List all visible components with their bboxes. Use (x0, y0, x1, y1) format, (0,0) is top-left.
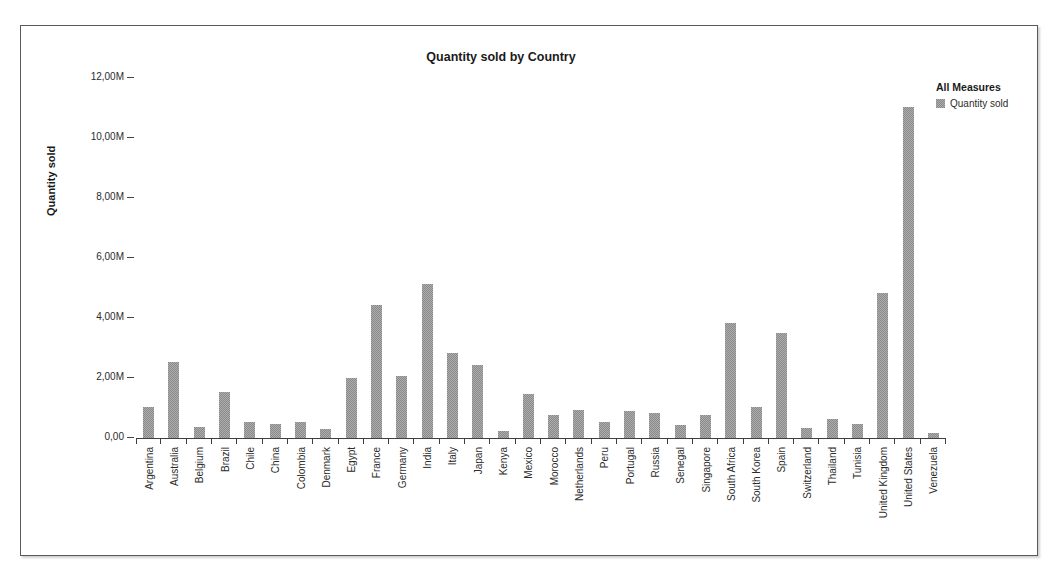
x-label-slot: Tunisia (845, 447, 870, 547)
bar[interactable] (548, 415, 559, 438)
bar[interactable] (422, 284, 433, 439)
x-axis-label: South Africa (725, 447, 736, 501)
x-tick-mark (237, 439, 262, 444)
x-tick-mark (668, 439, 693, 444)
x-tick-mark (819, 439, 844, 444)
bar[interactable] (877, 293, 888, 439)
x-axis-label: Chile (244, 447, 255, 470)
bar[interactable] (801, 428, 812, 439)
x-tick-mark (921, 439, 946, 444)
bar[interactable] (523, 394, 534, 438)
bar[interactable] (472, 365, 483, 439)
y-tick-label: 2,00M (96, 371, 124, 382)
legend: All Measures Quantity sold (936, 81, 1036, 109)
bar-slot (794, 66, 819, 438)
y-tick-mark (127, 377, 134, 378)
x-axis-label: Senegal (675, 447, 686, 484)
bar-slot (263, 66, 288, 438)
x-label-slot: United States (895, 447, 920, 547)
x-axis-ticks (136, 439, 946, 444)
bar[interactable] (700, 415, 711, 438)
bar-slot (693, 66, 718, 438)
bar-chart: Quantity sold by Country Quantity sold 1… (21, 26, 1037, 555)
x-axis-label: Italy (447, 447, 458, 465)
bar[interactable] (599, 422, 610, 439)
x-tick-mark (794, 439, 819, 444)
bar[interactable] (371, 305, 382, 439)
bar[interactable] (320, 429, 331, 438)
x-tick-mark (161, 439, 186, 444)
x-axis-label: Thailand (827, 447, 838, 485)
x-tick-mark (744, 439, 769, 444)
bar[interactable] (346, 378, 357, 438)
legend-title: All Measures (936, 81, 1036, 93)
bar-slot (819, 66, 844, 438)
x-label-slot: Morocco (541, 447, 566, 547)
legend-item-label: Quantity sold (950, 98, 1008, 109)
x-tick-mark (364, 439, 389, 444)
bar-slot (389, 66, 414, 438)
bar[interactable] (649, 413, 660, 438)
bar[interactable] (270, 424, 281, 438)
x-axis-label: France (371, 447, 382, 478)
bar[interactable] (776, 333, 787, 438)
x-tick-mark (187, 439, 212, 444)
x-label-slot: Chile (237, 447, 262, 547)
x-label-slot: Japan (465, 447, 490, 547)
bar[interactable] (219, 392, 230, 438)
x-label-slot: Switzerland (794, 447, 819, 547)
x-tick-mark (617, 439, 642, 444)
x-label-slot: Peru (592, 447, 617, 547)
bar[interactable] (143, 407, 154, 439)
bar[interactable] (573, 410, 584, 439)
y-tick-mark (127, 197, 134, 198)
bar[interactable] (903, 107, 914, 439)
bar[interactable] (624, 411, 635, 438)
bar[interactable] (295, 422, 306, 439)
y-tick-label: 0,00 (105, 431, 124, 442)
bar-slot (339, 66, 364, 438)
bar-slot (490, 66, 515, 438)
bar-slot (313, 66, 338, 438)
y-tick-mark (127, 137, 134, 138)
x-tick-mark (389, 439, 414, 444)
x-axis-label: South Korea (751, 447, 762, 503)
x-axis-label: India (422, 447, 433, 469)
y-axis-title: Quantity sold (45, 146, 57, 216)
bar[interactable] (244, 422, 255, 438)
x-label-slot: Colombia (288, 447, 313, 547)
x-tick-mark (870, 439, 895, 444)
bar[interactable] (827, 419, 838, 439)
bar[interactable] (852, 424, 863, 438)
bar[interactable] (498, 431, 509, 438)
bar[interactable] (447, 353, 458, 439)
x-label-slot: Germany (389, 447, 414, 547)
bar[interactable] (725, 323, 736, 439)
y-tick-label: 8,00M (96, 191, 124, 202)
x-tick-mark (541, 439, 566, 444)
x-axis-label: Peru (599, 447, 610, 468)
bar[interactable] (194, 427, 205, 438)
y-tick-label: 4,00M (96, 311, 124, 322)
x-axis-label: Brazil (219, 447, 230, 472)
x-tick-mark (414, 439, 439, 444)
x-axis-label: Australia (168, 447, 179, 486)
plot-area: 12,00M10,00M8,00M6,00M4,00M2,00M0,00 (136, 66, 946, 438)
x-label-slot: Australia (161, 447, 186, 547)
x-label-slot: Egypt (339, 447, 364, 547)
x-axis-label: Denmark (320, 447, 331, 488)
bar[interactable] (675, 425, 686, 439)
legend-swatch-icon (936, 99, 945, 108)
legend-items: Quantity sold (936, 98, 1036, 109)
x-axis-label: Venezuela (928, 447, 939, 494)
legend-item[interactable]: Quantity sold (936, 98, 1036, 109)
x-axis-label: Argentina (143, 447, 154, 490)
bar[interactable] (751, 407, 762, 439)
bar[interactable] (396, 376, 407, 438)
x-axis-labels: ArgentinaAustraliaBelgiumBrazilChileChin… (136, 447, 946, 547)
bar-slot (592, 66, 617, 438)
x-label-slot: United Kingdom (870, 447, 895, 547)
bar[interactable] (168, 362, 179, 439)
bar-slot (187, 66, 212, 438)
bar-slot (718, 66, 743, 438)
